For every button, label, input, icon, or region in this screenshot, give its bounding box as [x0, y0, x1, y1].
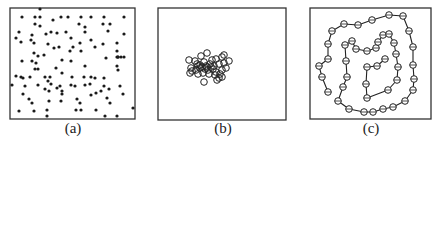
caption-c: (c) — [351, 120, 391, 137]
caption-b: (b) — [203, 120, 243, 137]
caption-a: (a) — [53, 120, 93, 137]
